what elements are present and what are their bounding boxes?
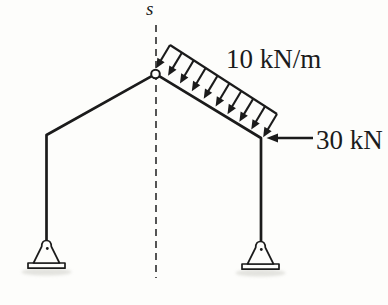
right-pin-support — [242, 242, 279, 270]
point-load-arrowhead — [267, 134, 279, 143]
point-load-label: 30 kN — [316, 125, 383, 155]
left-frame-member — [47, 76, 152, 241]
distributed-load-label: 10 kN/m — [226, 44, 321, 74]
left-support-pin-dot — [46, 247, 49, 250]
point-load-arrow — [267, 134, 314, 143]
frame-diagram: s 10 kN/m 30 kN — [0, 0, 388, 305]
right-support-gusset — [248, 242, 274, 265]
right-support-pin-dot — [260, 248, 263, 251]
right-frame-member — [159, 76, 261, 242]
left-support-shadow — [22, 268, 72, 275]
left-support-gusset — [34, 241, 60, 264]
section-line-label: s — [146, 0, 153, 19]
apex-pin-joint — [151, 70, 160, 79]
left-pin-support — [28, 241, 65, 269]
right-support-shadow — [236, 269, 286, 276]
